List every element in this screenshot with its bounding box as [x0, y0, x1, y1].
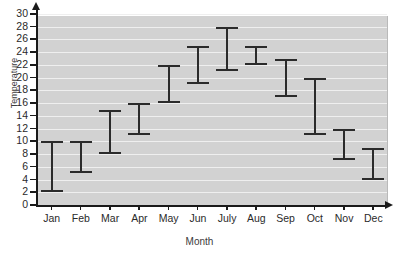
y-axis-tick — [30, 140, 36, 142]
range-bar — [158, 65, 180, 103]
range-bar-low-cap — [245, 63, 267, 65]
range-bar-low-cap — [70, 171, 92, 173]
y-axis-tick-label: 18 — [0, 83, 28, 95]
gridline — [37, 14, 387, 15]
y-axis-tick-label: 20 — [0, 71, 28, 83]
x-axis-tick-label: May — [159, 212, 179, 224]
x-axis-tick-label: July — [218, 212, 237, 224]
y-axis-tick-label: 28 — [0, 20, 28, 32]
range-bar-stem — [138, 103, 140, 135]
x-axis-title: Month — [0, 236, 399, 247]
y-axis-tick-label: 26 — [0, 32, 28, 44]
x-axis-tick — [343, 205, 345, 210]
x-axis-tick-label: Sep — [276, 212, 295, 224]
range-bar — [275, 59, 297, 97]
y-axis-tick-label: 6 — [0, 160, 28, 172]
y-axis-tick — [30, 115, 36, 117]
y-axis-arrow-icon — [32, 2, 40, 10]
y-axis-tick — [30, 179, 36, 181]
gridline — [37, 39, 387, 40]
x-axis-tick-label: Aug — [247, 212, 266, 224]
range-bar — [187, 46, 209, 84]
y-axis-tick-label: 8 — [0, 147, 28, 159]
range-bar-high-cap — [41, 141, 63, 143]
y-axis-line — [36, 8, 38, 206]
range-bar — [362, 148, 384, 180]
range-bar-chart: Temperature 024681012141618202224262830 … — [0, 0, 399, 256]
gridline — [37, 103, 387, 104]
x-axis-tick — [168, 205, 170, 210]
range-bar — [304, 78, 326, 135]
range-bar-low-cap — [333, 158, 355, 160]
gridline — [37, 65, 387, 66]
y-axis-tick — [30, 77, 36, 79]
x-axis-tick-label: Jun — [189, 212, 206, 224]
range-bar-low-cap — [187, 82, 209, 84]
range-bar-low-cap — [304, 133, 326, 135]
range-bar-stem — [168, 65, 170, 103]
range-bar-low-cap — [41, 190, 63, 192]
gridline — [37, 52, 387, 53]
gridline — [37, 90, 387, 91]
y-axis-tick — [30, 26, 36, 28]
range-bar-high-cap — [216, 27, 238, 29]
range-bar-high-cap — [333, 129, 355, 131]
x-axis-tick — [138, 205, 140, 210]
range-bar-low-cap — [99, 152, 121, 154]
y-axis-tick-label: 22 — [0, 58, 28, 70]
x-axis-tick — [285, 205, 287, 210]
y-axis-tick — [30, 51, 36, 53]
x-axis-tick-label: Mar — [101, 212, 119, 224]
range-bar — [333, 129, 355, 161]
x-axis-tick — [372, 205, 374, 210]
y-axis-tick-label: 24 — [0, 45, 28, 57]
y-axis-tick-label: 0 — [0, 198, 28, 210]
range-bar-stem — [226, 27, 228, 72]
y-axis-tick — [30, 89, 36, 91]
y-axis-tick — [30, 13, 36, 15]
y-axis-tick — [30, 102, 36, 104]
x-axis-tick — [226, 205, 228, 210]
range-bar-low-cap — [128, 133, 150, 135]
gridline — [37, 180, 387, 181]
x-axis-tick — [255, 205, 257, 210]
range-bar-stem — [343, 129, 345, 161]
x-axis-tick-label: Nov — [335, 212, 354, 224]
range-bar-stem — [197, 46, 199, 84]
range-bar-high-cap — [187, 46, 209, 48]
x-axis-tick-label: Oct — [307, 212, 323, 224]
plot-area — [37, 16, 388, 206]
gridline — [37, 78, 387, 79]
range-bar-high-cap — [362, 148, 384, 150]
range-bar — [41, 141, 63, 192]
range-bar-high-cap — [99, 110, 121, 112]
y-axis-tick — [30, 153, 36, 155]
y-axis-tick — [30, 128, 36, 130]
x-axis-tick — [197, 205, 199, 210]
y-axis-tick-label: 30 — [0, 7, 28, 19]
range-bar-low-cap — [216, 69, 238, 71]
range-bar-low-cap — [275, 95, 297, 97]
x-axis-arrow-icon — [385, 201, 393, 209]
y-axis-tick — [30, 204, 36, 206]
gridline — [37, 116, 387, 117]
range-bar — [99, 110, 121, 155]
range-bar-stem — [80, 141, 82, 173]
range-bar-low-cap — [362, 178, 384, 180]
x-axis-tick — [51, 205, 53, 210]
x-axis-tick-label: Jan — [43, 212, 60, 224]
range-bar — [245, 46, 267, 65]
y-axis-tick-label: 16 — [0, 96, 28, 108]
range-bar-high-cap — [304, 78, 326, 80]
range-bar-high-cap — [70, 141, 92, 143]
gridline — [37, 192, 387, 193]
range-bar — [216, 27, 238, 72]
y-axis-tick-label: 4 — [0, 173, 28, 185]
y-axis-tick — [30, 64, 36, 66]
range-bar-stem — [285, 59, 287, 97]
range-bar-stem — [109, 110, 111, 155]
x-axis-tick-label: Feb — [72, 212, 90, 224]
x-axis-tick — [80, 205, 82, 210]
y-axis-tick-label: 14 — [0, 109, 28, 121]
x-axis-tick-label: Dec — [364, 212, 383, 224]
